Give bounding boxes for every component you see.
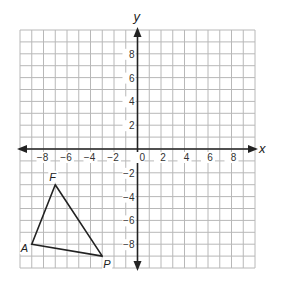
- x-tick-label: −6: [60, 152, 72, 163]
- coordinate-plane: −8−6−4−2024688642−2−4−6−8 FAP x y: [0, 0, 282, 282]
- y-tick-label: −6: [123, 215, 135, 226]
- x-tick-label: −4: [84, 152, 96, 163]
- axes: [17, 27, 258, 271]
- x-tick-label: 4: [184, 152, 190, 163]
- x-tick-label: 6: [207, 152, 213, 163]
- x-tick-label: −8: [37, 152, 49, 163]
- coordinate-plane-figure: −8−6−4−2024688642−2−4−6−8 FAP x y: [0, 0, 282, 282]
- x-tick-label: −2: [107, 152, 119, 163]
- y-tick-label: 8: [129, 49, 135, 60]
- y-tick-label: 6: [129, 73, 135, 84]
- x-axis-arrow-right-icon: [248, 145, 258, 153]
- y-tick-label: 2: [129, 120, 135, 131]
- y-tick-label: 4: [129, 96, 135, 107]
- x-axis-label: x: [258, 141, 266, 156]
- y-tick-label: −2: [123, 168, 135, 179]
- x-tick-label: 0: [140, 152, 146, 163]
- y-axis-label: y: [133, 9, 142, 24]
- x-axis-arrow-left-icon: [17, 145, 27, 153]
- y-axis-arrow-up-icon: [134, 27, 142, 37]
- y-tick-label: −8: [123, 239, 135, 250]
- x-tick-label: 8: [231, 152, 237, 163]
- y-tick-label: −4: [123, 192, 135, 203]
- vertex-label-a: A: [20, 242, 28, 254]
- x-tick-label: 2: [160, 152, 166, 163]
- vertex-label-p: P: [103, 258, 111, 270]
- y-axis-arrow-down-icon: [134, 261, 142, 271]
